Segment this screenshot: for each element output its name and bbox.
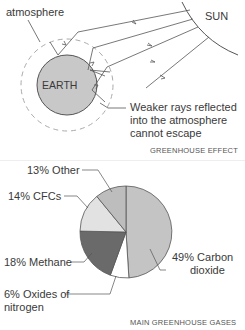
greenhouse-effect-caption: GREENHOUSE EFFECT — [150, 146, 238, 155]
earth-label: EARTH — [42, 79, 77, 92]
reflected-rays-label-line1: Weaker rays reflected — [130, 101, 237, 114]
greenhouse-gases-pie — [64, 170, 172, 294]
label-other: 13% Other — [27, 164, 80, 177]
sun-label: SUN — [205, 10, 228, 23]
pie-slice-carbon-dioxide — [126, 186, 172, 278]
reflected-rays-label-line2: into the atmosphere — [130, 114, 227, 127]
reflected-rays-label-line3: cannot escape — [130, 127, 202, 140]
label-methane: 18% Methane — [4, 256, 72, 269]
label-nox-line2: nitrogen — [4, 301, 44, 314]
label-cfcs: 14% CFCs — [8, 190, 61, 203]
label-nox-line1: 6% Oxides of — [4, 288, 69, 301]
greenhouse-gases-caption: MAIN GREENHOUSE GASES — [130, 318, 236, 327]
label-co2-line1: 49% Carbon — [172, 251, 233, 264]
atmosphere-label: atmosphere — [6, 6, 64, 19]
section-divider — [0, 160, 245, 161]
label-co2-line2: dioxide — [190, 264, 225, 277]
